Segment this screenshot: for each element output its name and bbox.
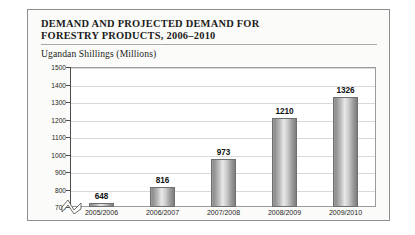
chart-title: DEMAND AND PROJECTED DEMAND FOR FORESTRY… bbox=[41, 18, 377, 41]
y-tick-mark bbox=[66, 190, 70, 191]
gridline bbox=[70, 121, 375, 122]
bar bbox=[89, 203, 114, 207]
x-axis-label: 2009/2010 bbox=[329, 209, 362, 216]
gridline bbox=[70, 103, 375, 104]
plot-area: 700800900100011001200130014001500 648816… bbox=[41, 67, 378, 207]
bar-value-label: 1326 bbox=[336, 86, 354, 95]
gridline bbox=[70, 86, 375, 87]
x-axis-labels: 2005/20062006/20072007/20082008/20092009… bbox=[41, 209, 378, 221]
y-tick-mark bbox=[66, 67, 70, 68]
figure-header: DEMAND AND PROJECTED DEMAND FOR FORESTRY… bbox=[41, 18, 377, 59]
bar bbox=[150, 187, 175, 207]
y-tick-label: 1400 bbox=[51, 81, 66, 88]
bar-value-label: 1210 bbox=[275, 107, 293, 116]
x-axis-label: 2007/2008 bbox=[207, 209, 240, 216]
gridline bbox=[70, 68, 375, 69]
y-tick-mark bbox=[66, 120, 70, 121]
y-tick-label: 1100 bbox=[52, 134, 66, 141]
y-tick-label: 1000 bbox=[51, 151, 66, 158]
title-divider bbox=[41, 44, 377, 45]
y-tick-label: 1300 bbox=[51, 99, 66, 106]
y-tick-label: 900 bbox=[55, 169, 66, 176]
y-axis-line bbox=[70, 67, 71, 207]
x-axis-label: 2005/2006 bbox=[85, 209, 118, 216]
bar bbox=[211, 159, 236, 207]
bar-value-label: 973 bbox=[217, 148, 231, 157]
bar bbox=[333, 97, 358, 207]
y-tick-mark bbox=[66, 102, 70, 103]
chart-subtitle: Ugandan Shillings (Millions) bbox=[41, 48, 377, 59]
y-tick-mark bbox=[66, 137, 70, 138]
y-tick-label: 1500 bbox=[51, 64, 66, 71]
figure-card: DEMAND AND PROJECTED DEMAND FOR FORESTRY… bbox=[27, 9, 390, 221]
x-axis-label: 2008/2009 bbox=[268, 209, 301, 216]
y-tick-label: 1200 bbox=[51, 116, 66, 123]
y-tick-mark bbox=[66, 155, 70, 156]
y-tick-mark bbox=[66, 85, 70, 86]
bar-value-label: 816 bbox=[156, 176, 170, 185]
x-axis-label: 2006/2007 bbox=[146, 209, 179, 216]
bar bbox=[272, 118, 297, 207]
y-tick-mark bbox=[66, 207, 70, 208]
gridline bbox=[70, 138, 375, 139]
y-tick-label: 800 bbox=[55, 186, 66, 193]
y-tick-mark bbox=[66, 172, 70, 173]
bar-value-label: 648 bbox=[95, 192, 109, 201]
